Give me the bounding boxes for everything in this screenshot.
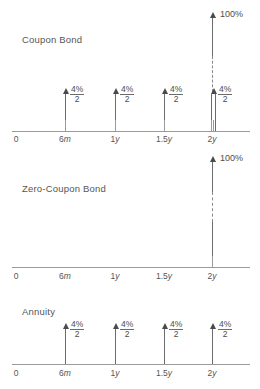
principal-dashed-segment-zero — [212, 192, 213, 222]
fraction-denominator: 2 — [218, 94, 232, 104]
cashflow-label-6m-annuity: 4% 2 — [70, 320, 84, 339]
arrow-head-icon — [162, 88, 168, 94]
panel-title-coupon-bond: Coupon Bond — [22, 34, 82, 45]
fraction-numerator: 4% — [70, 85, 84, 94]
arrow-head-icon — [211, 88, 217, 94]
axis-label-1_5y-annuity: 1.5y — [156, 368, 172, 378]
axis-label-2y-zero: 2y — [208, 271, 217, 281]
arrow-head-icon — [210, 323, 216, 329]
axis-label-0-annuity: 0 — [14, 368, 19, 378]
fraction-denominator: 2 — [70, 329, 84, 339]
cashflow-arrow-6m-annuity — [65, 329, 66, 364]
principal-arrow-coupon — [212, 18, 213, 56]
arrow-head-icon — [162, 323, 168, 329]
axis-label-1_5y-zero: 1.5y — [156, 271, 172, 281]
panel-title-annuity: Annuity — [22, 306, 55, 317]
cashflow-arrow-1y-annuity — [115, 329, 116, 364]
timeline-axis-annuity — [12, 364, 250, 365]
fraction-numerator: 4% — [218, 85, 232, 94]
axis-tick-1_5y — [164, 120, 165, 131]
axis-label-1y-annuity: 1y — [111, 368, 120, 378]
fraction-denominator: 2 — [120, 94, 134, 104]
fraction-denominator: 2 — [70, 94, 84, 104]
cashflow-label-1y-annuity: 4% 2 — [120, 320, 134, 339]
fraction-numerator: 4% — [120, 85, 134, 94]
timeline-axis-coupon — [12, 131, 250, 132]
fraction-numerator: 4% — [169, 85, 183, 94]
axis-label-2y-annuity: 2y — [208, 368, 217, 378]
principal-arrow-zero — [212, 162, 213, 192]
fraction-numerator: 4% — [120, 320, 134, 329]
panel-annuity: Annuity 4% 2 4% 2 4% 2 4% 2 0 6m 1y 1.5y… — [0, 290, 260, 389]
arrow-head-icon — [113, 323, 119, 329]
axis-label-6m-coupon: 6m — [59, 134, 71, 144]
fraction-denominator: 2 — [169, 329, 183, 339]
axis-tick-1y — [115, 120, 116, 131]
axis-label-6m-zero: 6m — [59, 271, 71, 281]
fraction-denominator: 2 — [169, 94, 183, 104]
cashflow-label-1_5y-coupon: 4% 2 — [169, 85, 183, 104]
panel-title-zero-coupon-bond: Zero-Coupon Bond — [22, 183, 106, 194]
panel-coupon-bond: Coupon Bond 100% 4% 2 4% 2 4% 2 4% 2 0 6… — [0, 0, 260, 145]
cashflow-label-2y-coupon: 4% 2 — [218, 85, 232, 104]
axis-label-0-zero: 0 — [14, 271, 19, 281]
axis-tick-2y-zero — [212, 256, 213, 267]
axis-label-1y-coupon: 1y — [111, 134, 120, 144]
cashflow-arrow-2y-annuity — [212, 329, 213, 364]
arrow-head-icon — [63, 323, 69, 329]
cashflow-label-6m-coupon: 4% 2 — [70, 85, 84, 104]
axis-label-1_5y-coupon: 1.5y — [156, 134, 172, 144]
arrow-head-icon — [210, 12, 216, 18]
principal-label-coupon: 100% — [220, 9, 243, 19]
axis-tick-6m — [65, 120, 66, 131]
axis-label-2y-coupon: 2y — [208, 134, 217, 144]
axis-tick-2y — [211, 120, 212, 131]
principal-dashed-segment-coupon — [212, 56, 213, 92]
cashflow-label-2y-annuity: 4% 2 — [218, 320, 232, 339]
panel-zero-coupon-bond: Zero-Coupon Bond 100% 0 6m 1y 1.5y 2y — [0, 145, 260, 290]
cashflow-label-1_5y-annuity: 4% 2 — [169, 320, 183, 339]
arrow-head-icon — [210, 156, 216, 162]
cashflow-label-1y-coupon: 4% 2 — [120, 85, 134, 104]
fraction-numerator: 4% — [169, 320, 183, 329]
arrow-head-icon — [113, 88, 119, 94]
timeline-axis-zero — [12, 267, 250, 268]
fraction-numerator: 4% — [218, 320, 232, 329]
fraction-numerator: 4% — [70, 320, 84, 329]
axis-label-6m-annuity: 6m — [59, 368, 71, 378]
axis-tick-2y-b — [213, 120, 214, 131]
fraction-denominator: 2 — [218, 329, 232, 339]
cashflow-arrow-1_5y-annuity — [164, 329, 165, 364]
axis-label-1y-zero: 1y — [111, 271, 120, 281]
fraction-denominator: 2 — [120, 329, 134, 339]
principal-label-zero: 100% — [220, 153, 243, 163]
arrow-head-icon — [63, 88, 69, 94]
axis-label-0-coupon: 0 — [14, 134, 19, 144]
